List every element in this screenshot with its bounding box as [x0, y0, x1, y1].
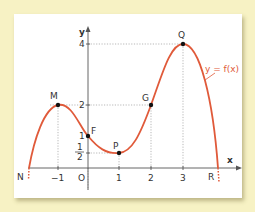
- x-axis-arrow-icon: [236, 166, 242, 171]
- label-m: M: [50, 91, 58, 101]
- label-f: F: [91, 126, 96, 136]
- y-tick-half-num: 1: [77, 142, 83, 152]
- x-axis-label: x: [227, 155, 233, 165]
- y-tick-half-den: 2: [77, 152, 83, 162]
- x-tick-2: 2: [148, 173, 154, 183]
- label-n: N: [17, 172, 24, 182]
- y-axis-label: y: [79, 27, 85, 37]
- marked-points: [56, 42, 185, 155]
- function-graph: y = f(x) M F P G Q N R y x −1 O 1 2 3 1 …: [0, 0, 255, 212]
- curve-continuation-left: [29, 168, 30, 180]
- label-r: R: [208, 172, 214, 182]
- x-tick-3: 3: [180, 173, 186, 183]
- label-q: Q: [178, 30, 185, 40]
- y-tick-4: 4: [79, 39, 85, 49]
- x-tick-1: 1: [116, 173, 122, 183]
- y-tick-1: 1: [79, 131, 85, 141]
- axes: [28, 32, 236, 190]
- point-g: [149, 103, 153, 107]
- point-p: [117, 151, 121, 155]
- point-q: [181, 42, 185, 46]
- curve-continuation-right: [218, 168, 219, 182]
- curve-label: y = f(x): [205, 64, 239, 74]
- point-f: [86, 134, 90, 138]
- x-tick-neg1: −1: [51, 173, 64, 183]
- label-p: P: [113, 141, 119, 151]
- origin-label: O: [78, 173, 85, 183]
- y-tick-2: 2: [79, 100, 85, 110]
- point-m: [56, 103, 60, 107]
- y-axis-arrow-icon: [86, 26, 91, 32]
- curve-label-pointer: [205, 73, 215, 80]
- label-g: G: [142, 93, 149, 103]
